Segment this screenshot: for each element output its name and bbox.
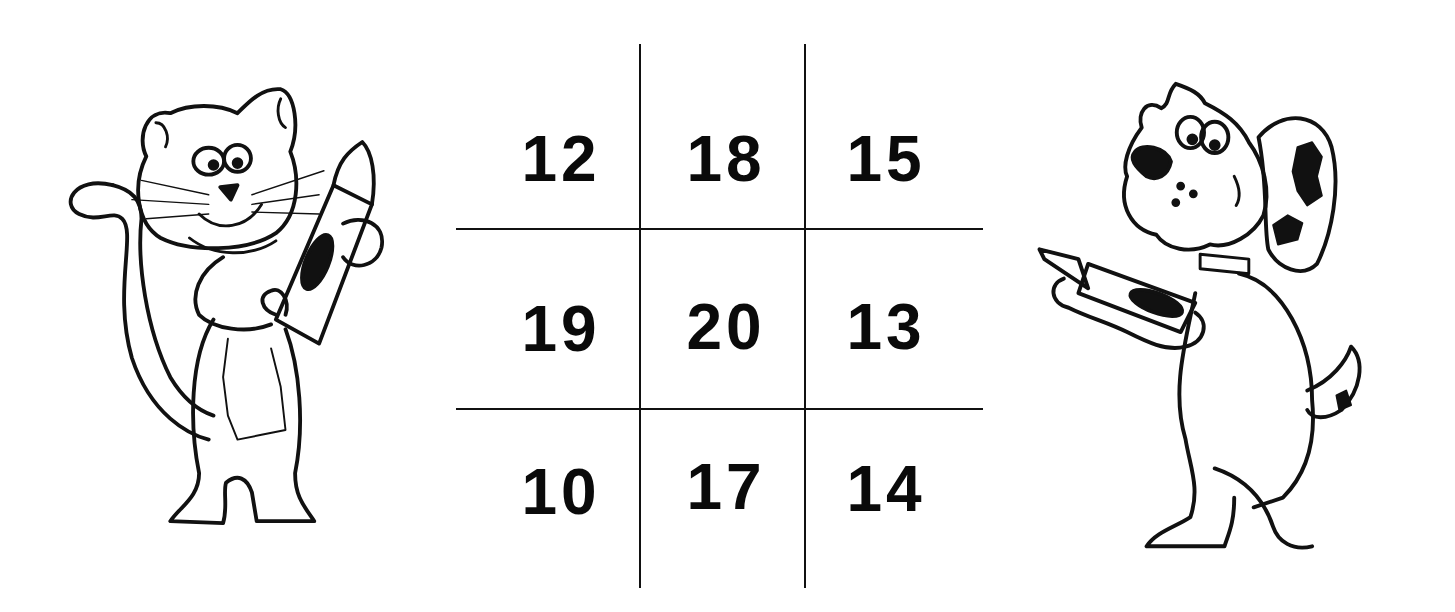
grid-cell-r1c2: 18: [651, 114, 801, 204]
grid-cell-r1c1: 12: [486, 114, 636, 204]
grid-cell-r3c1: 10: [486, 447, 636, 537]
grid-line-horizontal: [456, 408, 983, 410]
grid-line-vertical: [639, 44, 641, 588]
grid-cell-r2c2: 20: [651, 282, 801, 372]
dog-with-crayon-illustration: [1020, 65, 1390, 570]
grid-cell-r1c3: 15: [806, 114, 966, 204]
grid-cell-r3c3: 14: [806, 444, 966, 534]
number-grid: 12 18 15 19 20 13 10 17 14: [456, 44, 983, 588]
grid-cell-r2c1: 19: [486, 284, 636, 374]
cat-with-crayon-illustration: [55, 70, 420, 550]
grid-cell-r2c3: 13: [806, 282, 966, 372]
grid-cell-r3c2: 17: [651, 442, 801, 532]
grid-line-horizontal: [456, 228, 983, 230]
